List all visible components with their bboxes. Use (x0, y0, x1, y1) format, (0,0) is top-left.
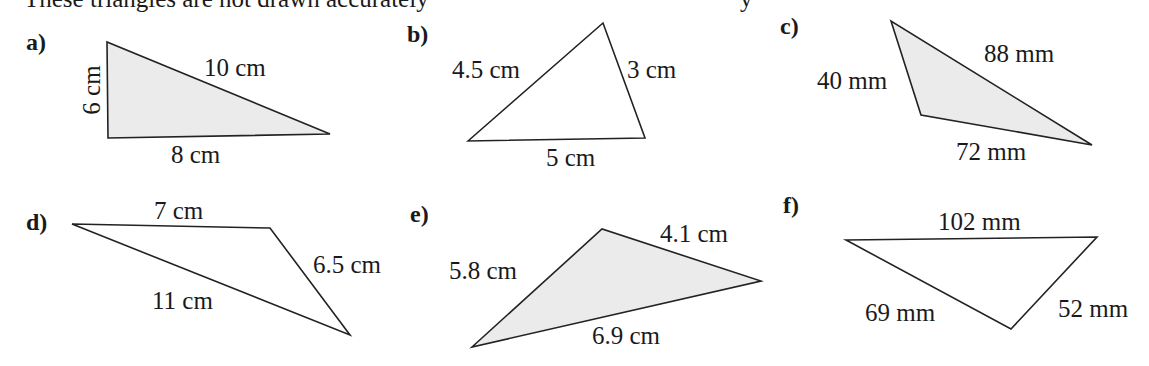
side-label-f-3: 52 mm (1058, 295, 1129, 322)
side-label-d-1: 7 cm (154, 197, 204, 224)
side-label-c-3: 72 mm (956, 138, 1027, 165)
side-label-d-3: 11 cm (152, 287, 213, 314)
part-label-e: e) (410, 201, 429, 227)
part-label-d: d) (26, 209, 47, 235)
side-label-f-1: 102 mm (938, 208, 1021, 235)
side-label-a-3: 8 cm (171, 141, 221, 168)
side-label-b-3: 5 cm (546, 144, 596, 171)
side-label-d-2: 6.5 cm (313, 251, 382, 278)
side-label-a-2: 10 cm (204, 54, 266, 81)
part-label-f: f) (783, 192, 799, 218)
triangle-d: d) 7 cm 6.5 cm 11 cm (26, 197, 382, 335)
part-label-b: b) (407, 21, 428, 47)
side-label-b-1: 4.5 cm (452, 56, 521, 83)
triangle-e: e) 5.8 cm 4.1 cm 6.9 cm (410, 201, 761, 349)
side-label-c-2: 88 mm (984, 40, 1055, 67)
part-label-a: a) (26, 29, 46, 55)
triangle-c: c) 40 mm 88 mm 72 mm (780, 13, 1092, 165)
triangle-d-shape (72, 224, 350, 335)
part-label-c: c) (780, 13, 799, 39)
side-label-e-3: 6.9 cm (592, 322, 661, 349)
side-label-f-2: 69 mm (865, 299, 936, 326)
side-label-e-1: 5.8 cm (449, 257, 518, 284)
side-label-a-1: 6 cm (78, 65, 105, 115)
triangle-a: a) 6 cm 10 cm 8 cm (26, 29, 330, 168)
triangle-f: f) 102 mm 69 mm 52 mm (783, 192, 1129, 329)
side-label-e-2: 4.1 cm (660, 220, 729, 247)
triangle-b: b) 4.5 cm 3 cm 5 cm (407, 21, 677, 171)
side-label-c-1: 40 mm (817, 67, 888, 94)
side-label-b-2: 3 cm (627, 56, 677, 83)
triangles-figure: a) 6 cm 10 cm 8 cm b) 4.5 cm 3 cm 5 cm c… (0, 0, 1149, 366)
